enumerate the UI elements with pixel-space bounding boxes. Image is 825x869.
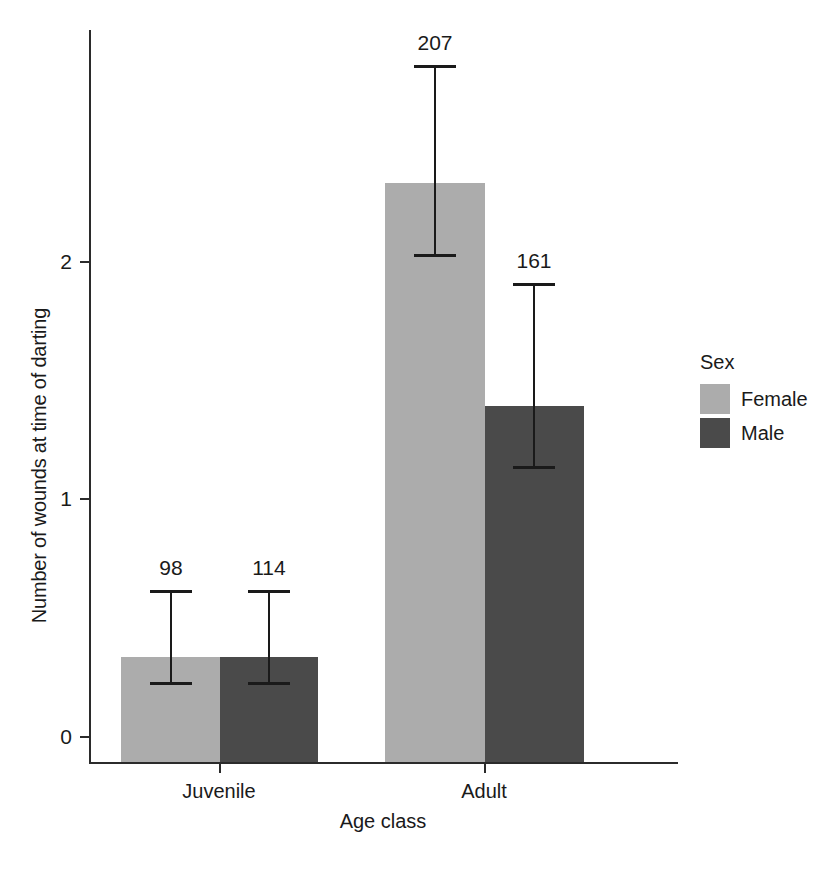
x-axis-line	[89, 762, 678, 764]
y-axis-tick-label-1-wrap: 1	[8, 488, 72, 510]
legend-title: Sex	[700, 352, 820, 372]
y-axis-tick-2	[80, 261, 90, 263]
y-axis-title: Number of wounds at time of darting	[28, 231, 51, 701]
error-bar-adult-male	[513, 283, 555, 469]
error-bar-cap-top	[414, 65, 456, 68]
legend-swatch-female-icon	[700, 384, 730, 414]
error-bar-cap-top	[248, 590, 290, 593]
x-axis-tick-label-adult: Adult	[384, 780, 584, 803]
y-axis-tick-0	[80, 736, 90, 738]
error-bar-juvenile-female	[150, 590, 192, 685]
legend-label-male: Male	[741, 423, 784, 443]
legend-item-female[interactable]: Female	[700, 382, 820, 416]
legend: Sex Female Male	[700, 352, 820, 450]
value-label-adult-male: 161	[474, 250, 594, 271]
error-bar-stem	[170, 590, 172, 685]
y-axis-tick-label-2-wrap: 2	[8, 251, 72, 273]
error-bar-cap-bottom	[248, 682, 290, 685]
y-axis-tick-label-1: 1	[12, 488, 72, 509]
x-axis-tick-adult	[484, 764, 486, 773]
x-axis-tick-juvenile	[219, 764, 221, 773]
value-label-juvenile-male: 114	[209, 557, 329, 578]
y-axis-tick-label-2: 2	[12, 251, 72, 272]
bar-chart-figure: Number of wounds at time of darting Age …	[0, 0, 825, 869]
plot-area: 98 114 207 161	[91, 30, 678, 762]
x-axis-tick-label-juvenile: Juvenile	[119, 780, 319, 803]
y-axis-tick-label-0-wrap: 0	[8, 726, 72, 748]
error-bar-cap-top	[513, 283, 555, 286]
error-bar-adult-female	[414, 65, 456, 257]
error-bar-stem	[268, 590, 270, 685]
error-bar-stem	[533, 283, 535, 469]
x-axis-title: Age class	[88, 810, 678, 833]
error-bar-cap-top	[150, 590, 192, 593]
legend-item-male[interactable]: Male	[700, 416, 820, 450]
legend-swatch-male-icon	[700, 418, 730, 448]
value-label-adult-female: 207	[375, 32, 495, 53]
y-axis-tick-1	[80, 498, 90, 500]
error-bar-stem	[434, 65, 436, 257]
error-bar-cap-bottom	[150, 682, 192, 685]
y-axis-tick-label-0: 0	[12, 726, 72, 747]
error-bar-cap-bottom	[414, 254, 456, 257]
error-bar-cap-bottom	[513, 466, 555, 469]
bar-adult-female[interactable]	[385, 183, 485, 762]
legend-label-female: Female	[741, 389, 808, 409]
error-bar-juvenile-male	[248, 590, 290, 685]
